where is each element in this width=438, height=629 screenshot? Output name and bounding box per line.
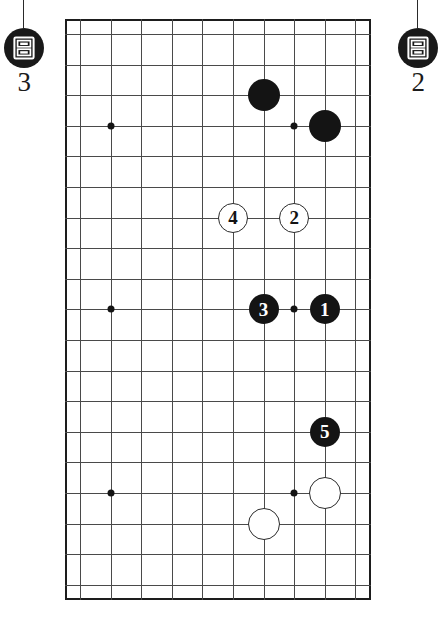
- stone-move-number: 1: [320, 300, 330, 319]
- hoshi-left-middle: [107, 306, 114, 313]
- marker-disc-right[interactable]: [398, 28, 438, 68]
- hoshi-right-middle: [291, 306, 298, 313]
- hoshi-right-top: [291, 122, 298, 129]
- grid-line-horizontal: [65, 95, 371, 96]
- hoshi-left-top: [107, 122, 114, 129]
- grid-line-horizontal: [65, 34, 371, 35]
- stone-move-number: 5: [320, 422, 330, 441]
- go-stone-move-3[interactable]: 3: [249, 294, 279, 324]
- go-stone-move-1[interactable]: 1: [310, 294, 340, 324]
- go-stone-black[interactable]: [248, 79, 280, 111]
- page-marker-right[interactable]: 2: [396, 28, 438, 96]
- marker-stem-line: [417, 0, 418, 28]
- go-stone-move-5[interactable]: 5: [310, 417, 340, 447]
- stone-move-number: 3: [259, 300, 269, 319]
- grid-line-horizontal: [65, 156, 371, 157]
- page-marker-left[interactable]: 3: [2, 28, 46, 96]
- grid-line-horizontal: [65, 401, 371, 402]
- go-stone-white[interactable]: [309, 477, 341, 509]
- hoshi-right-bottom: [291, 489, 298, 496]
- go-stone-move-4[interactable]: 4: [218, 203, 248, 233]
- grid-line-horizontal: [65, 279, 371, 280]
- grid-line-horizontal: [65, 462, 371, 463]
- go-stone-black[interactable]: [309, 110, 341, 142]
- grid-line-horizontal: [65, 340, 371, 341]
- grid-line-horizontal: [65, 65, 371, 66]
- marker-number-right: 2: [412, 69, 425, 96]
- go-board[interactable]: 42315: [65, 19, 371, 600]
- marker-number-left: 3: [18, 69, 31, 96]
- archive-box-icon: [407, 36, 429, 60]
- grid-line-horizontal: [65, 524, 371, 525]
- archive-box-icon: [13, 36, 35, 60]
- go-stone-white[interactable]: [248, 508, 280, 540]
- grid-line-horizontal: [65, 187, 371, 188]
- marker-stem-line: [23, 0, 24, 28]
- grid-line-horizontal: [65, 248, 371, 249]
- grid-line-horizontal: [65, 371, 371, 372]
- go-stone-move-2[interactable]: 2: [279, 203, 309, 233]
- stone-move-number: 2: [289, 208, 299, 227]
- grid-line-horizontal: [65, 585, 371, 586]
- grid-line-horizontal: [65, 554, 371, 555]
- marker-disc-left[interactable]: [4, 28, 44, 68]
- stone-move-number: 4: [228, 208, 238, 227]
- hoshi-left-bottom: [107, 489, 114, 496]
